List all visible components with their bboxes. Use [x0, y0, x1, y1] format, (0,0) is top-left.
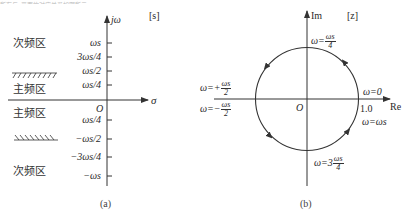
unit-label: 1.0: [360, 104, 373, 114]
upper-hatch-boundary: [12, 73, 57, 78]
tick-label-ws2: ωs/2: [82, 66, 101, 76]
annot-bottom-3ws4: ω=3ωs4: [314, 155, 344, 172]
jw-axis-label: jω: [111, 15, 121, 25]
z-plane: [214, 11, 390, 186]
annot-prefix: ω=+: [200, 82, 221, 93]
re-axis-label: Re: [390, 102, 401, 112]
annot-zero: ω=0: [363, 87, 382, 97]
annot-ws: ω=ωs: [362, 117, 387, 127]
s-axis-ticks: [107, 43, 112, 176]
caption-a: (a): [100, 199, 111, 209]
annot-prefix: ω=: [311, 35, 325, 46]
annot-plus-ws2: ω=+ωs2: [200, 80, 231, 97]
region-secondary-lower: 次频区: [13, 166, 46, 177]
s-plane-label: [s]: [149, 11, 160, 21]
region-primary-lower: 主频区: [13, 108, 46, 119]
z-origin-label: O: [296, 103, 303, 113]
tick-label-neg-ws4: ωs/4: [82, 115, 101, 125]
fraction-den: 4: [336, 164, 340, 172]
fraction: ωs2: [221, 80, 232, 97]
tick-label-neg-3ws4: −3ωs/4: [71, 152, 101, 162]
fraction-den: 2: [224, 89, 228, 97]
tick-label-neg-ws: −ωs: [83, 171, 101, 181]
caption-b: (b): [300, 199, 312, 209]
annot-top-ws4: ω=ωs4: [311, 33, 336, 50]
sigma-axis-label: σ: [151, 95, 156, 106]
annot-minus-ws2: ω=−ωs2: [200, 101, 231, 118]
region-secondary-upper: 次频区: [13, 38, 46, 49]
tick-label-3ws4: 3ωs/4: [77, 52, 101, 62]
annot-prefix: ω=−: [200, 103, 221, 114]
s-origin-label: O: [96, 104, 103, 114]
z-plane-label: [z]: [347, 11, 358, 21]
tick-label-ws4: ωs/4: [82, 80, 101, 90]
im-axis-label: Im: [311, 11, 322, 21]
fraction-den: 4: [328, 42, 332, 50]
arrow-upper-right: [344, 62, 349, 68]
tick-label-neg-ws2: −ωs/2: [76, 134, 101, 144]
fraction: ωs2: [221, 101, 232, 118]
fraction: ωs4: [333, 155, 344, 172]
region-primary-upper: 主频区: [13, 84, 46, 95]
tick-label-ws: ωs: [90, 38, 101, 48]
fraction-den: 2: [224, 110, 228, 118]
annot-prefix: ω=3: [314, 157, 333, 168]
lower-hatch-boundary: [14, 135, 58, 140]
fraction: ωs4: [325, 33, 336, 50]
